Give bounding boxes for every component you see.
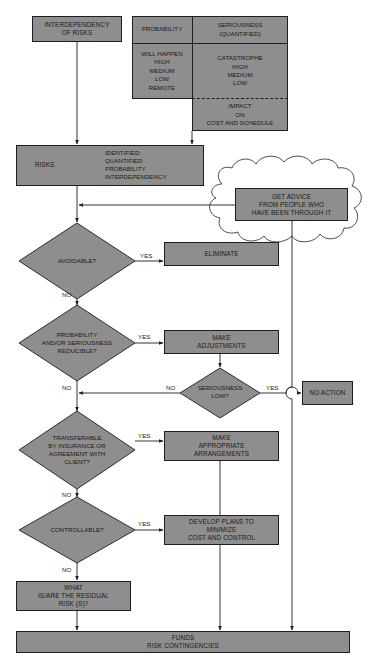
transferable-no-label: NO	[62, 491, 71, 498]
transferable-yes-label: YES	[138, 432, 150, 439]
reducible-question: PROBABILITY AND/OR SERIOUSNESS REDUCIBLE…	[24, 327, 130, 359]
risks-label: RISKS	[35, 161, 54, 168]
probability-header: PROBABILITY	[132, 16, 192, 43]
seriousness-levels: CATASTROPHE HIGH MEDIUM LOW	[192, 44, 288, 98]
develop-plans-box: DEVELOP PLANS TO MINIMIZE COST AND CONTR…	[164, 515, 279, 545]
seriousness-no-label: NO	[166, 384, 175, 391]
eliminate-box: ELIMINATE	[164, 242, 279, 266]
risks-box: RISKS IDENTIFIED QUANTIFIED PROBABILITY …	[16, 145, 204, 186]
interdependency-of-risks-box: INTERDEPENDENCY OF RISKS	[32, 16, 122, 42]
reducible-yes-label: YES	[138, 333, 150, 340]
risks-attributes: IDENTIFIED QUANTIFIED PROBABILITY INTERD…	[105, 149, 167, 181]
probability-levels: WILL HAPPEN HIGH MEDIUM LOW REMOTE	[132, 44, 192, 98]
avoidable-yes-label: YES	[140, 252, 152, 259]
reducible-no-label: NO	[62, 384, 71, 391]
avoidable-no-label: NO	[62, 291, 71, 298]
seriousness-yes-label: YES	[266, 384, 278, 391]
probability-seriousness-table: PROBABILITY SERIOUSNESS (QUANTIFIED) WIL…	[132, 16, 288, 131]
transferable-question: TRANSFERABLE BY INSURANCE OR AGREEMENT W…	[30, 429, 124, 471]
funds-risk-contingencies-box: FUNDS RISK CONTINGENCIES	[16, 631, 350, 653]
make-appropriate-arrangements-box: MAKE APPROPRIATE ARRANGEMENTS	[164, 431, 279, 461]
controllable-yes-label: YES	[138, 520, 150, 527]
make-adjustments-box: MAKE ADJUSTMENTS	[164, 330, 279, 354]
seriousness-header: SERIOUSNESS (QUANTIFIED)	[192, 16, 288, 43]
no-action-box: NO ACTION	[302, 381, 353, 405]
seriousness-low-question: SERIOUSNESS LOW?	[188, 381, 252, 403]
get-advice-box: GET ADVICE FROM PEOPLE WHO HAVE BEEN THR…	[235, 188, 348, 221]
residual-risks-box: WHAT IS/ARE THE RESIDUAL RISK (S)?	[16, 581, 131, 611]
controllable-question: CONTROLLABLE?	[29, 520, 125, 540]
avoidable-question: AVOIDABLE?	[29, 250, 125, 272]
impact-on-cost-schedule: IMPACT ON COST AND SCHEDULE	[192, 99, 288, 131]
controllable-no-label: NO	[62, 566, 71, 573]
